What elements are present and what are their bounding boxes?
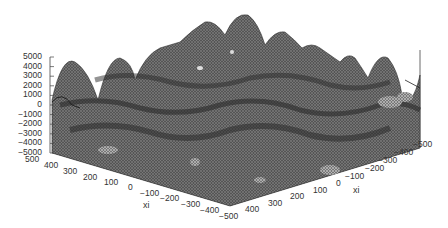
x-tick: 100 [104, 178, 118, 187]
y-tick: −300 [378, 156, 397, 165]
x-tick: −100 [140, 189, 159, 198]
y-tick: −100 [345, 172, 364, 181]
x-tick: 0 [128, 183, 133, 192]
x-tick: 200 [83, 173, 97, 182]
z-tick: 1000 [0, 90, 42, 99]
surface-canvas [0, 0, 448, 228]
y-tick: 400 [245, 205, 259, 214]
x-tick: −300 [181, 200, 200, 209]
y-tick: −500 [413, 140, 432, 149]
x-tick: −400 [200, 206, 219, 215]
y-axis-title: xi [353, 185, 360, 195]
surface-plot: 5000 4000 3000 2000 1000 0 −1000 −2000 −… [0, 0, 448, 228]
x-tick: −200 [160, 194, 179, 203]
y-tick: 300 [268, 199, 282, 208]
x-tick: 500 [25, 155, 39, 164]
z-tick: 5000 [0, 52, 42, 61]
z-tick: 3000 [0, 71, 42, 80]
x-axis-title: xi [143, 200, 150, 210]
y-tick: 200 [290, 192, 304, 201]
x-tick: −500 [219, 212, 238, 221]
y-tick: 0 [336, 179, 341, 188]
y-tick: −400 [394, 148, 413, 157]
x-tick: 300 [63, 167, 77, 176]
z-tick: −2000 [0, 119, 42, 128]
y-tick: 100 [313, 186, 327, 195]
z-tick: 0 [0, 100, 42, 109]
x-tick: 400 [44, 161, 58, 170]
y-tick: −200 [365, 164, 384, 173]
